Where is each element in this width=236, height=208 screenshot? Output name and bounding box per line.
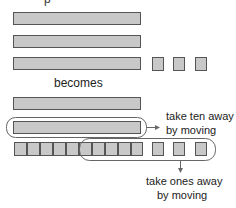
ones-selection-outline xyxy=(80,139,216,161)
take-ten-label-line1: take ten away xyxy=(166,110,234,123)
take-ones-label-line2: by moving xyxy=(157,189,207,202)
ten-selection-outline xyxy=(7,118,147,138)
take-ten-label-line2: by moving xyxy=(166,124,216,137)
take-ones-label-line1: take ones away xyxy=(146,175,222,188)
